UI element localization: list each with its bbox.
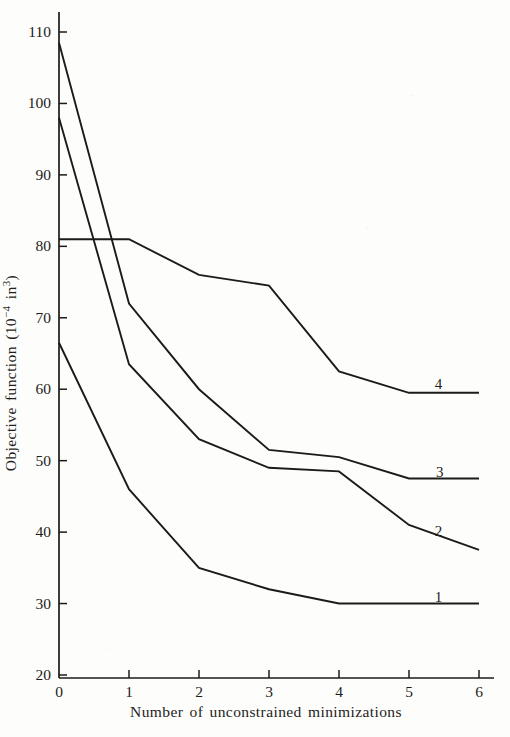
curve-labels-layer: 1234 — [435, 376, 444, 605]
x-axis-title: Number of unconstrained minimizations — [130, 703, 402, 720]
curve-1 — [59, 343, 479, 604]
curve-label-3: 3 — [436, 464, 444, 480]
axes-layer: 20304050607080901001100123456 — [28, 12, 494, 700]
y-tick-label: 100 — [28, 94, 52, 111]
x-tick-label: 5 — [405, 683, 413, 700]
y-axis-title-superscript: −4 — [0, 305, 12, 318]
curve-4 — [59, 239, 479, 393]
curve-label-4: 4 — [435, 376, 443, 392]
y-tick-label: 40 — [36, 523, 52, 540]
y-tick-label: 90 — [36, 166, 52, 183]
x-tick-label: 4 — [335, 683, 343, 700]
x-tick-label: 1 — [125, 683, 133, 700]
scanned-figure-page: 20304050607080901001100123456 1234 Numbe… — [0, 0, 510, 737]
y-tick-label: 80 — [36, 237, 52, 254]
curve-label-1: 1 — [435, 589, 443, 605]
x-tick-label: 6 — [475, 683, 483, 700]
y-axis-title: Objective function (10−4 in3) — [0, 275, 20, 471]
y-axis-title-text: ) — [2, 275, 20, 281]
y-tick-label: 70 — [36, 309, 52, 326]
y-tick-label: 60 — [36, 380, 52, 397]
y-axis-title-text: Objective function (10 — [2, 318, 20, 471]
curve-label-2: 2 — [435, 523, 443, 539]
series-layer — [59, 43, 479, 604]
y-tick-label: 30 — [36, 595, 52, 612]
curve-3 — [59, 43, 479, 479]
x-tick-label: 0 — [55, 683, 63, 700]
y-tick-label: 110 — [28, 23, 51, 40]
y-axis-title-text: in — [2, 286, 19, 305]
line-chart: 20304050607080901001100123456 1234 Numbe… — [0, 0, 510, 737]
x-tick-label: 3 — [265, 683, 273, 700]
y-tick-label: 50 — [36, 452, 52, 469]
curve-2 — [59, 118, 479, 550]
x-tick-label: 2 — [195, 683, 203, 700]
y-tick-label: 20 — [36, 666, 52, 683]
